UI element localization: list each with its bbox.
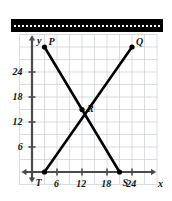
point-label-P: P [49, 37, 55, 47]
x-axis-arrow-right [151, 169, 156, 175]
x-axis-name-label: x [158, 179, 163, 189]
x-axis-arrow-left [22, 169, 27, 175]
point-Q [129, 44, 134, 49]
x-tick-label-18: 18 [101, 179, 111, 189]
x-tick-label-6: 6 [54, 179, 59, 189]
point-label-S: S [123, 178, 129, 188]
point-S [117, 169, 122, 174]
figure-canvas: 61218246121824xyPQRTS [0, 0, 172, 201]
y-tick-label-24: 24 [13, 67, 23, 77]
y-tick-label-12: 12 [13, 117, 23, 127]
point-T [42, 169, 47, 174]
point-R [79, 107, 84, 112]
x-tick-label-12: 12 [76, 179, 86, 189]
y-axis-arrow-up [29, 36, 35, 41]
point-P [42, 44, 47, 49]
redaction-bar [11, 19, 163, 32]
point-label-R: R [87, 104, 94, 114]
redaction-dashed-line [14, 25, 160, 27]
point-label-T: T [36, 178, 42, 188]
y-axis-arrow-down [29, 178, 35, 183]
y-tick-label-18: 18 [13, 92, 23, 102]
point-label-Q: Q [136, 37, 143, 47]
y-tick-label-6: 6 [18, 142, 23, 152]
y-axis-name-label: y [37, 36, 41, 46]
